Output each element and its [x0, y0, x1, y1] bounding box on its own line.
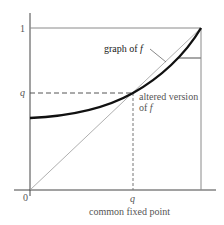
- altered-version-label: altered version: [139, 91, 198, 102]
- x-label-zero: 0: [23, 192, 28, 203]
- x-label-q: q: [130, 193, 135, 204]
- common-fixed-point-caption: common fixed point: [89, 206, 170, 217]
- y-label-q: q: [20, 87, 25, 98]
- altered-version-label-2: of f: [139, 102, 154, 113]
- graph-of-f-leader: [150, 49, 166, 62]
- graph-of-f-label: graph of f: [104, 43, 144, 54]
- fixed-point-diagram: 1 q 0 q graph of f altered version of f …: [0, 0, 224, 225]
- graph-of-f-curve: [30, 28, 201, 118]
- y-label-one: 1: [20, 23, 25, 34]
